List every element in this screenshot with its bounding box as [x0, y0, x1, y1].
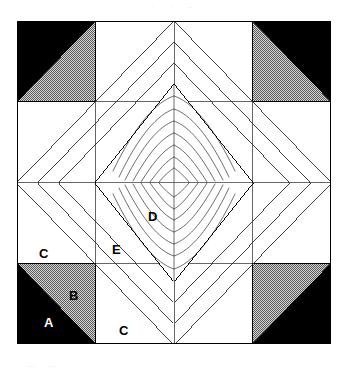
patch-label-c-left: C — [39, 247, 48, 260]
cropped-text-top: · · - — [0, 0, 348, 12]
figure-canvas: · · - — [0, 0, 348, 369]
patch-label-a: A — [44, 316, 53, 329]
patch-label-d: D — [148, 210, 157, 223]
cropped-text-bottom: _ _ — [0, 355, 348, 368]
patch-label-e: E — [112, 243, 121, 256]
patch-label-c-bottom: C — [119, 324, 128, 337]
patch-label-b: B — [69, 289, 78, 302]
quilt-block — [17, 21, 331, 344]
quilt-block-svg — [17, 21, 331, 344]
